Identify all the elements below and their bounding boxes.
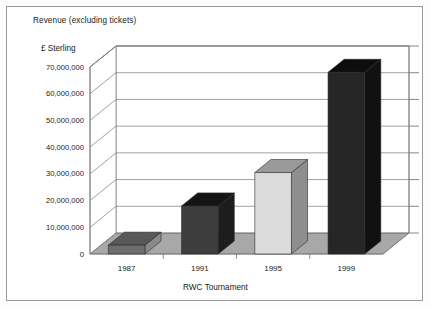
- y-tick-label-5: 50,000,000: [46, 116, 84, 125]
- y-tick-label-7: 70,000,000: [46, 63, 84, 72]
- bar-front-1995: [255, 173, 292, 254]
- y-tick-label-2: 20,000,000: [46, 196, 84, 205]
- y-tick-label-4: 40,000,000: [46, 143, 84, 152]
- bar-front-1999: [328, 72, 365, 254]
- bar-front-1991: [182, 206, 219, 254]
- bar-side-1995: [291, 160, 307, 255]
- chart-left-wall: [90, 46, 116, 254]
- chart-screenshot: Revenue (excluding tickets) £ Sterling 0…: [0, 0, 431, 309]
- x-category-label-1991: 1991: [191, 264, 209, 273]
- x-category-label-1995: 1995: [264, 264, 282, 273]
- y-tick-label-6: 60,000,000: [46, 89, 84, 98]
- x-axis-title: RWC Tournament: [0, 283, 431, 292]
- bar-chart-plot: 010,000,00020,000,00030,000,00040,000,00…: [0, 0, 431, 309]
- x-category-label-1987: 1987: [118, 264, 136, 273]
- y-tick-label-0: 0: [80, 250, 84, 259]
- bar-side-1999: [365, 59, 381, 254]
- y-tick-label-1: 10,000,000: [46, 223, 84, 232]
- x-category-label-1999: 1999: [337, 264, 355, 273]
- y-tick-label-3: 30,000,000: [46, 169, 84, 178]
- bar-front-1987: [108, 245, 145, 254]
